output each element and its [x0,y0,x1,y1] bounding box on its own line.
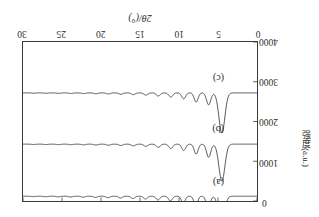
x-tick-label: 15 [135,29,145,39]
y-tick-label: 0 [262,197,278,207]
x-tick-label: 20 [96,29,106,39]
x-axis-title: 2θ/(°) [22,13,258,24]
x-tick-label: 30 [17,29,27,39]
panel-label-b: (b) [212,124,224,135]
panel-label-a: (a) [213,177,224,188]
y-tick-label: 4000 [262,36,278,46]
figure-canvas: (a) (b) (c) 051015202530 010002000300040… [0,0,319,217]
xrd-curve [23,144,257,181]
y-tick-label: 1000 [262,157,278,167]
x-tick-label: 25 [57,29,67,39]
panel-label-c: (c) [213,73,224,84]
y-tick-label: 3000 [262,77,278,87]
y-tick-label: 2000 [262,117,278,127]
plot-area: (a) (b) (c) [22,41,258,202]
xrd-figure: (a) (b) (c) 051015202530 010002000300040… [0,0,319,217]
x-tick-label: 10 [175,29,185,39]
y-axis-title: 强度(a.u.) [299,130,313,167]
x-tick-label: 5 [216,29,221,39]
